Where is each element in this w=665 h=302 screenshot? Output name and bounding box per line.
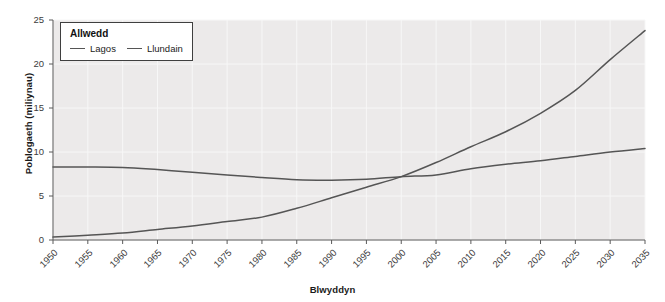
- legend-item-lagos[interactable]: Lagos: [70, 43, 116, 54]
- legend-item-llundain[interactable]: Llundain: [127, 43, 183, 54]
- population-line-chart: Poblogaeth (miliynau) Blwyddyn 051015202…: [0, 0, 665, 302]
- legend-entries: LagosLlundain: [70, 43, 183, 54]
- legend-item-label: Lagos: [90, 43, 116, 54]
- legend-line-swatch: [70, 48, 85, 49]
- legend-item-label: Llundain: [147, 43, 183, 54]
- legend-title: Allwedd: [70, 28, 183, 39]
- legend-line-swatch: [127, 48, 142, 49]
- legend-box: Allwedd LagosLlundain: [60, 22, 193, 61]
